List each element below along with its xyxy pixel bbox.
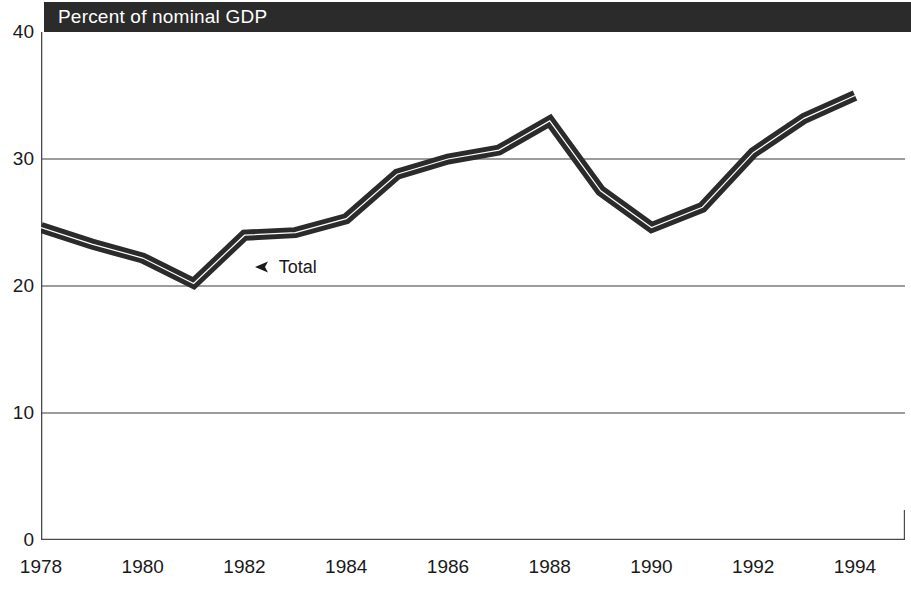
x-tick-label-1980: 1980 bbox=[122, 556, 164, 578]
x-tick-label-1990: 1990 bbox=[630, 556, 672, 578]
x-tick-label-1982: 1982 bbox=[223, 556, 265, 578]
x-tick-label-1986: 1986 bbox=[427, 556, 469, 578]
x-axis-tick-labels: 197819801982198419861988199019921994 bbox=[0, 0, 911, 596]
x-tick-label-1984: 1984 bbox=[325, 556, 367, 578]
x-tick-label-1978: 1978 bbox=[20, 556, 62, 578]
x-tick-label-1988: 1988 bbox=[529, 556, 571, 578]
x-tick-label-1994: 1994 bbox=[834, 556, 876, 578]
series-annotation-label: Total bbox=[279, 257, 317, 278]
left-arrow-icon bbox=[255, 261, 269, 273]
series-annotation: Total bbox=[255, 257, 317, 278]
x-tick-label-1992: 1992 bbox=[732, 556, 774, 578]
chart-container: Percent of nominal GDP 010203040 1978198… bbox=[0, 0, 911, 596]
